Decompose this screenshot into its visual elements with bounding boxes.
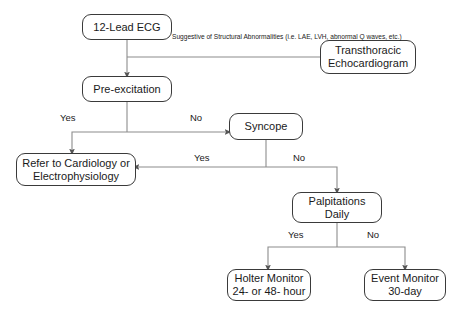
- node-transthoracic-echocardiogram-line2: Echocardiogram: [328, 57, 408, 70]
- annotation-structural-line1: Suggestive of Structural Abnormalities: [172, 33, 283, 40]
- node-transthoracic-echocardiogram[interactable]: Transthoracic Echocardiogram: [320, 40, 416, 74]
- node-holter-monitor-line1: Holter Monitor: [234, 272, 303, 285]
- node-refer-to-cardiology-line2: Electrophysiology: [33, 170, 119, 183]
- annotation-structural-line2: (i.e. LAE, LVH, abnormal Q waves, etc.): [285, 33, 401, 40]
- node-event-monitor[interactable]: Event Monitor 30-day: [364, 269, 446, 301]
- node-syncope[interactable]: Syncope: [229, 113, 303, 140]
- node-event-monitor-line2: 30-day: [388, 285, 422, 298]
- edge-syncope-no: [266, 167, 337, 191]
- edge-palpitations-no: [337, 247, 405, 268]
- edge-label-palpitations-yes: Yes: [288, 229, 304, 240]
- node-refer-to-cardiology[interactable]: Refer to Cardiology or Electrophysiology: [16, 153, 136, 186]
- annotation-structural-abnormalities: Suggestive of Structural Abnormalities (…: [172, 33, 318, 41]
- node-holter-monitor[interactable]: Holter Monitor 24- or 48- hour: [227, 269, 311, 301]
- node-12-lead-ecg-line1: 12-Lead ECG: [93, 21, 160, 34]
- node-palpitations-daily-line2: Daily: [325, 208, 349, 221]
- node-palpitations-daily-line1: Palpitations: [309, 195, 366, 208]
- edge-label-syncope-no: No: [293, 152, 305, 163]
- node-refer-to-cardiology-line1: Refer to Cardiology or: [22, 157, 130, 170]
- node-pre-excitation-line1: Pre-excitation: [93, 83, 160, 96]
- edge-label-preexcitation-yes: Yes: [60, 112, 76, 123]
- edge-palpitations-yes: [268, 247, 337, 268]
- node-pre-excitation[interactable]: Pre-excitation: [82, 76, 172, 102]
- edge-preexcitation-yes: [72, 132, 127, 152]
- node-event-monitor-line1: Event Monitor: [371, 272, 439, 285]
- node-syncope-line1: Syncope: [245, 120, 288, 133]
- flowchart-canvas: 12-Lead ECG Transthoracic Echocardiogram…: [0, 0, 460, 313]
- edge-label-syncope-yes: Yes: [194, 152, 210, 163]
- edge-label-preexcitation-no: No: [190, 112, 202, 123]
- node-transthoracic-echocardiogram-line1: Transthoracic: [335, 44, 401, 57]
- edge-label-palpitations-no: No: [367, 229, 379, 240]
- node-holter-monitor-line2: 24- or 48- hour: [233, 285, 306, 298]
- node-palpitations-daily[interactable]: Palpitations Daily: [292, 192, 382, 223]
- node-12-lead-ecg[interactable]: 12-Lead ECG: [82, 14, 172, 40]
